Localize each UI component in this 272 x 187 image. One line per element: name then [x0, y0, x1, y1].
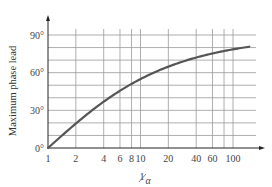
data-curve [48, 47, 249, 148]
y-tick-label: 0° [35, 143, 44, 154]
x-tick-label: 10 [136, 153, 146, 164]
y-axis-arrow-icon [46, 15, 50, 21]
x-tick-label: 40 [191, 153, 201, 164]
phase-lead-curve [48, 47, 249, 148]
y-tick-label: 30° [30, 105, 44, 116]
x-axis-label-denominator: α [145, 175, 151, 186]
x-tick-labels: 1246810204060100 [46, 153, 241, 164]
x-tick-label: 60 [207, 153, 217, 164]
x-tick-label: 4 [101, 153, 106, 164]
x-tick-label: 6 [117, 153, 122, 164]
y-axis-label: Maximum phase lead [7, 45, 18, 136]
x-tick-label: 8 [129, 153, 134, 164]
y-tick-label: 90° [30, 30, 44, 41]
x-tick-label: 2 [73, 153, 78, 164]
x-axis-arrow-icon [259, 146, 265, 150]
y-tick-label: 60° [30, 67, 44, 78]
y-tick-labels: 0°30°60°90° [30, 30, 44, 154]
x-axis-label: 1 α [139, 171, 151, 186]
x-tick-label: 20 [163, 153, 173, 164]
grid-lines [48, 29, 256, 148]
phase-lead-chart: 1246810204060100 0°30°60°90° Maximum pha… [0, 0, 272, 187]
x-tick-label: 1 [46, 153, 51, 164]
x-tick-label: 100 [226, 153, 241, 164]
